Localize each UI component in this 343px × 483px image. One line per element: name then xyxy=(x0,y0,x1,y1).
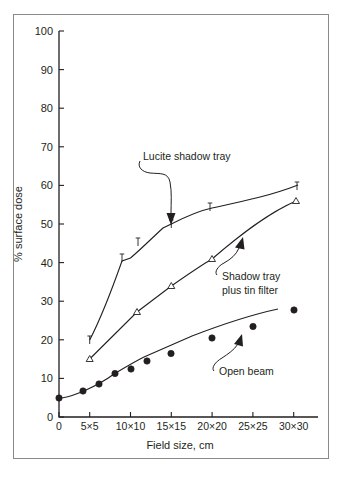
xtick-label: 30×30 xyxy=(279,420,309,432)
y-axis-title: % surface dose xyxy=(12,186,24,262)
annotation-lucite-shadow-tray: Lucite shadow tray xyxy=(139,150,231,225)
annotation-label-open-beam: Open beam xyxy=(219,365,274,377)
x-axis-ticks xyxy=(59,412,294,417)
xtick-label: 0 xyxy=(56,420,62,432)
xtick-label: 15×15 xyxy=(157,420,187,432)
annotation-label-shadow-tray-line1: Shadow tray xyxy=(222,270,281,282)
ytick-label: 50 xyxy=(41,218,53,230)
xtick-label: 5×5 xyxy=(81,420,99,432)
curve-lucite-shadow-tray xyxy=(90,185,298,340)
axis-lines xyxy=(59,31,318,417)
annotation-label-shadow-tray-line2: plus tin filter xyxy=(222,284,279,296)
x-axis-tick-labels: 0 5×5 10×10 15×15 20×20 25×25 30×30 xyxy=(56,420,309,432)
xtick-label: 10×10 xyxy=(116,420,146,432)
series-open-beam xyxy=(56,307,297,401)
ytick-label: 30 xyxy=(41,295,53,307)
xtick-label: 25×25 xyxy=(238,420,268,432)
annotation-shadow-tray-plus-tin-filter: Shadow tray plus tin filter xyxy=(216,237,281,296)
ytick-label: 40 xyxy=(41,257,53,269)
ytick-label: 10 xyxy=(41,372,53,384)
ytick-label: 60 xyxy=(41,179,53,191)
y-axis-ticks xyxy=(59,31,64,417)
ytick-label: 20 xyxy=(41,334,53,346)
figure-container: 100 90 80 70 60 50 40 30 20 10 0 % surfa… xyxy=(0,0,343,483)
ytick-label: 80 xyxy=(41,102,53,114)
ytick-label: 90 xyxy=(41,64,53,76)
chart-plot-area: 100 90 80 70 60 50 40 30 20 10 0 % surfa… xyxy=(0,0,343,483)
xtick-label: 20×20 xyxy=(197,420,227,432)
x-axis-title: Field size, cm xyxy=(146,439,213,451)
series-lucite-shadow-tray xyxy=(87,182,299,344)
annotation-label-lucite-shadow-tray: Lucite shadow tray xyxy=(143,150,231,162)
annotation-open-beam: Open beam xyxy=(213,334,274,377)
ytick-label: 100 xyxy=(35,25,53,37)
ytick-label: 70 xyxy=(41,141,53,153)
ytick-label: 0 xyxy=(47,411,53,423)
y-axis-tick-labels: 100 90 80 70 60 50 40 30 20 10 0 xyxy=(35,25,53,423)
markers-lucite-shadow-tray xyxy=(87,182,299,344)
